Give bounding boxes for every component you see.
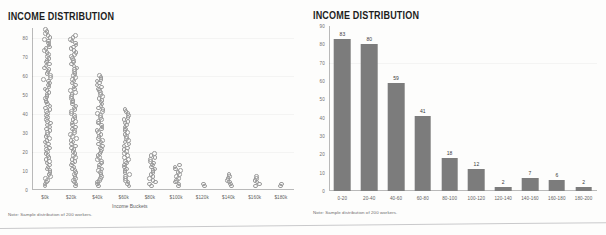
right-y-tick-label: 30 [319, 134, 325, 139]
left-plot-area: 01020304050607080$0k$20k$40k$60k$80k$100… [32, 28, 294, 190]
data-point-dot [127, 172, 132, 177]
bar-value-label: 83 [340, 31, 346, 37]
bar-column[interactable] [388, 26, 405, 191]
bar[interactable] [575, 187, 592, 191]
right-y-tick-label: 60 [319, 79, 325, 84]
strip-column [167, 28, 185, 190]
strip-column [220, 28, 238, 190]
data-point-dot [48, 107, 53, 112]
strip-column [246, 28, 264, 190]
bar[interactable] [441, 158, 458, 191]
data-point-dot [177, 163, 182, 168]
bar[interactable] [495, 187, 512, 191]
left-chart-panel: INCOME DISTRIBUTION 01020304050607080$0k… [0, 0, 303, 235]
right-y-tick-label: 0 [322, 189, 325, 194]
data-point-dot [74, 136, 79, 141]
left-y-tick-label: 40 [22, 111, 28, 116]
bar-value-label: 18 [447, 150, 453, 156]
left-x-tick-label: $60k [119, 195, 129, 200]
bar-column[interactable] [441, 26, 458, 191]
bar-column[interactable] [575, 26, 592, 191]
bar-value-label: 6 [555, 172, 558, 178]
data-point-dot [123, 107, 128, 112]
bar-column[interactable] [361, 26, 378, 191]
data-point-dot [101, 107, 106, 112]
left-y-tick-label: 60 [22, 73, 28, 78]
bar[interactable] [522, 178, 539, 191]
strip-column [36, 28, 54, 190]
data-point-dot [95, 111, 100, 116]
data-point-dot [254, 174, 259, 179]
bar[interactable] [334, 39, 351, 191]
strip-column [89, 28, 107, 190]
data-point-dot [122, 144, 127, 149]
right-y-tick-label: 10 [319, 170, 325, 175]
bar-column[interactable] [495, 26, 512, 191]
left-y-tick-label: 20 [22, 149, 28, 154]
right-y-tick-label: 80 [319, 42, 325, 47]
right-chart-panel: INCOME DISTRIBUTION 01020304050607080908… [303, 0, 606, 235]
bar-value-label: 80 [366, 36, 372, 42]
left-y-tick-label: 80 [22, 35, 28, 40]
right-x-tick-label: 120-140 [494, 196, 512, 201]
left-chart-note: Note: Sample distribution of 200 workers… [8, 212, 92, 217]
right-x-tick-label: 80-100 [442, 196, 457, 201]
left-x-axis-title: Income Buckets [112, 203, 148, 209]
strip-column [115, 28, 133, 190]
data-point-dot [73, 144, 78, 149]
bar[interactable] [388, 83, 405, 191]
right-x-tick-label: 60-80 [417, 196, 429, 201]
left-x-tick-label: $100k [170, 195, 183, 200]
left-y-tick-label: 50 [22, 92, 28, 97]
bar-value-label: 2 [582, 179, 585, 185]
right-x-tick-label: 20-40 [363, 196, 375, 201]
bar-value-label: 7 [529, 170, 532, 176]
left-x-tick-label: $180k [274, 195, 287, 200]
left-x-tick-label: $40k [92, 195, 102, 200]
bar[interactable] [548, 180, 565, 191]
left-x-tick-label: $120k [196, 195, 209, 200]
strip-column [62, 28, 80, 190]
right-x-tick-label: 40-60 [390, 196, 402, 201]
bar[interactable] [468, 169, 485, 191]
bar-column[interactable] [334, 26, 351, 191]
left-x-tick-label: $0k [41, 195, 49, 200]
bar[interactable] [361, 44, 378, 191]
data-point-dot [47, 67, 52, 72]
bar-value-label: 2 [502, 179, 505, 185]
left-y-tick-label: 70 [22, 54, 28, 59]
right-chart-title: INCOME DISTRIBUTION [313, 9, 419, 21]
bar-value-label: 12 [474, 161, 480, 167]
right-y-tick-label: 20 [319, 152, 325, 157]
left-y-tick-label: 0 [25, 188, 28, 193]
right-x-tick-label: 180-200 [575, 196, 593, 201]
bar[interactable] [414, 116, 431, 191]
data-point-dot [41, 77, 46, 82]
left-y-tick-label: 30 [22, 130, 28, 135]
right-x-tick-label: 140-160 [521, 196, 539, 201]
left-y-tick-label: 10 [22, 168, 28, 173]
right-y-axis [329, 26, 330, 191]
right-y-tick-label: 70 [319, 60, 325, 65]
data-point-dot [73, 33, 78, 38]
right-x-tick-label: 100-120 [468, 196, 486, 201]
right-y-tick-label: 90 [319, 24, 325, 29]
right-x-tick-label: 160-180 [548, 196, 566, 201]
bar-column[interactable] [522, 26, 539, 191]
left-x-tick-label: $20k [66, 195, 76, 200]
left-x-tick-label: $160k [248, 195, 261, 200]
bar-value-label: 59 [393, 75, 399, 81]
page-canvas: INCOME DISTRIBUTION 01020304050607080$0k… [0, 0, 606, 235]
data-point-dot [48, 128, 53, 133]
right-x-tick-label: 0-20 [338, 196, 348, 201]
data-point-dot [279, 182, 284, 187]
bar-column[interactable] [548, 26, 565, 191]
data-point-dot [201, 182, 206, 187]
data-point-dot [178, 168, 183, 173]
data-point-dot [95, 128, 100, 133]
data-point-dot [100, 138, 105, 143]
strip-column [193, 28, 211, 190]
strip-column [141, 28, 159, 190]
left-x-tick-label: $80k [145, 195, 155, 200]
right-y-tick-label: 50 [319, 97, 325, 102]
